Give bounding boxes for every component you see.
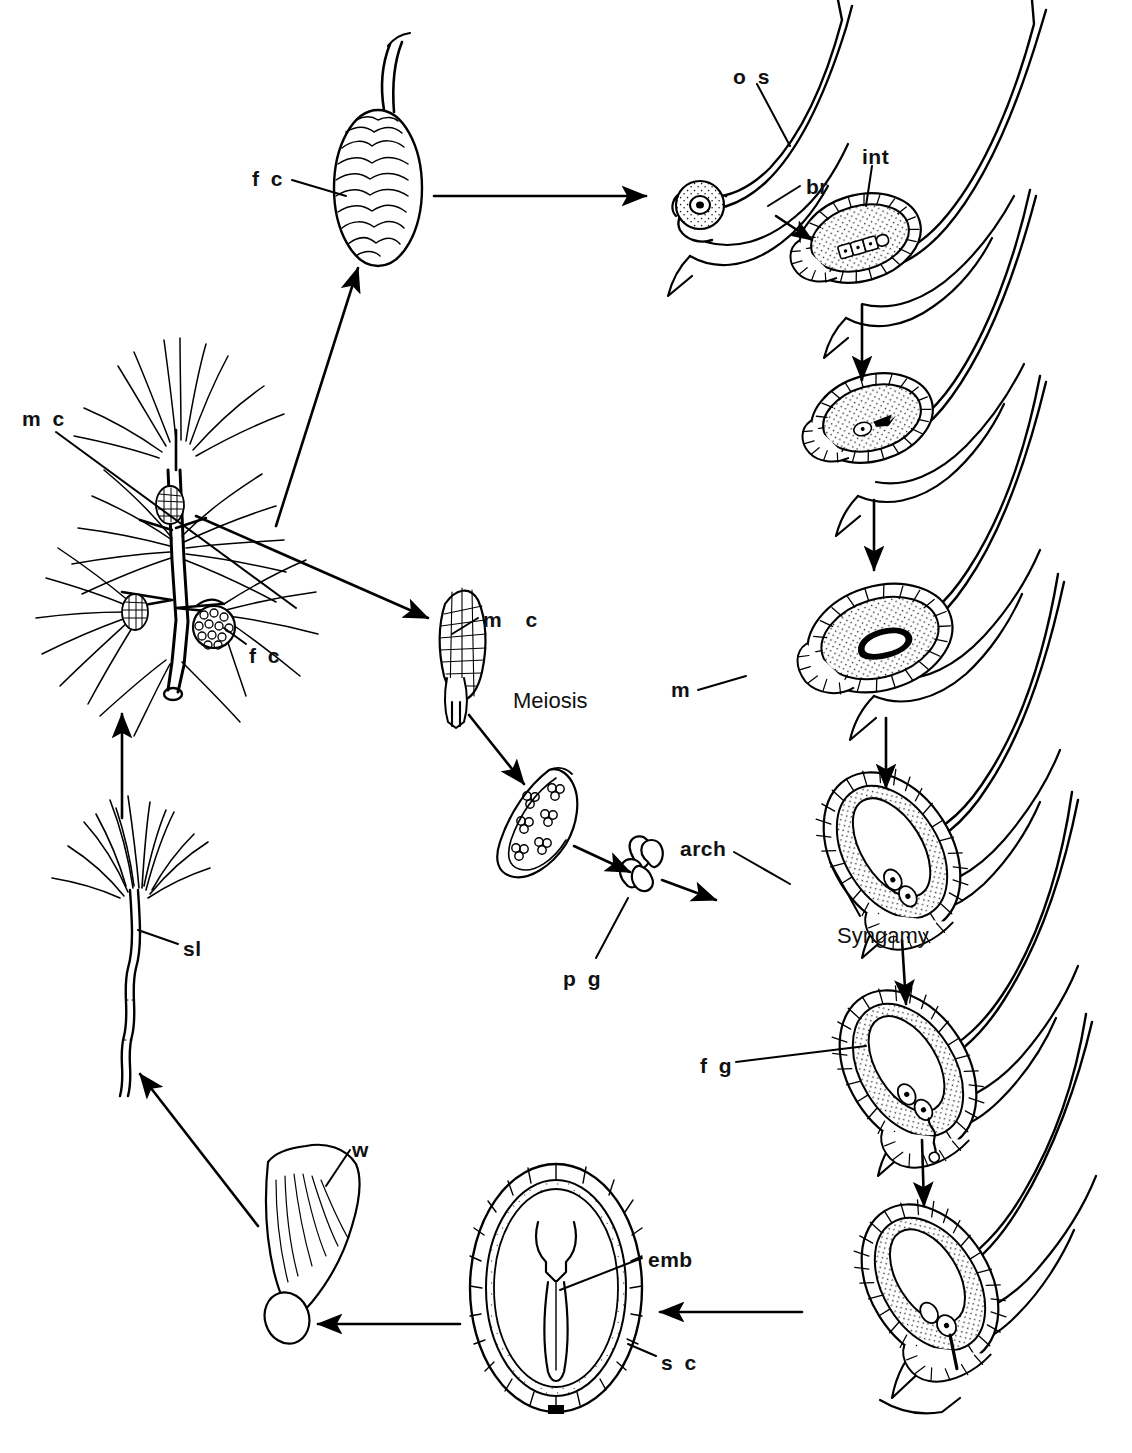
stage-pine-branch	[36, 338, 318, 736]
leader-sc	[628, 1344, 656, 1356]
label-meiosis: Meiosis	[513, 690, 588, 712]
leader-arch	[734, 852, 790, 884]
arrow-branch-to-female-cone	[276, 268, 358, 526]
stage-male-cone	[440, 588, 486, 728]
stage-pollen-grain	[620, 836, 663, 891]
leader-pg	[596, 898, 628, 958]
label-female-gametophyte: f g	[700, 1055, 735, 1076]
leader-br	[768, 186, 800, 206]
label-megaspore: m	[671, 679, 690, 700]
leader-sl	[138, 930, 178, 944]
arrow-seed-to-seedling	[140, 1074, 258, 1226]
branch-male-cone	[156, 486, 184, 524]
arrow-meiosis	[469, 715, 524, 784]
label-male-cone-branch: m c	[22, 408, 67, 429]
arrow-spores-to-pollen	[574, 846, 630, 872]
label-bract: br	[806, 176, 828, 197]
label-seed-coat: s c	[661, 1352, 699, 1373]
label-seedling: sl	[183, 938, 202, 959]
stage-winged-seed	[258, 1145, 359, 1350]
arrow-branch-to-male-cone	[196, 516, 428, 618]
label-male-cone-detail: m c	[483, 609, 546, 630]
arrow-pollen-to-ovule	[662, 880, 716, 900]
label-archegonium: arch	[680, 838, 726, 859]
life-cycle-illustration	[0, 0, 1132, 1453]
leader-m	[698, 676, 746, 690]
label-female-cone-branch: f c	[249, 645, 283, 666]
stage-microsporangium	[497, 768, 577, 877]
stage-female-cone	[334, 33, 422, 266]
label-wing: w	[352, 1139, 369, 1160]
label-ovuliferous-scale: o s	[733, 66, 772, 87]
label-female-cone-top: f c	[252, 168, 286, 189]
label-embryo: emb	[648, 1249, 693, 1270]
figure-canvas: f c o s br int m c m c f c m Meiosis arc…	[0, 0, 1132, 1453]
branch-male-cone-2	[122, 594, 148, 630]
leader-os	[757, 84, 790, 146]
stage-seed	[470, 1164, 642, 1414]
label-integument: int	[862, 146, 889, 167]
label-syngamy: Syngamy	[837, 925, 929, 947]
cycle-arrows	[122, 196, 924, 1324]
label-pollen-grain: p g	[563, 968, 604, 989]
